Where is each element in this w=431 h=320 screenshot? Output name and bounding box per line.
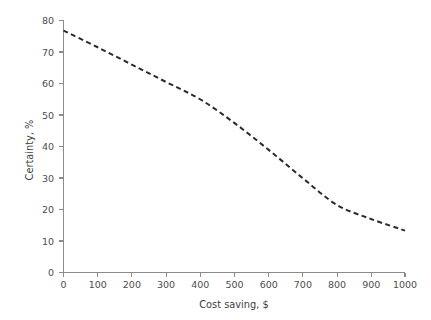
x-axis-title: Cost saving, $: [199, 299, 268, 310]
x-tick-label-400: 400: [191, 279, 209, 290]
x-axis-ticks: [64, 273, 406, 278]
x-tick-label-300: 300: [157, 279, 175, 290]
y-tick-label-40: 40: [42, 141, 54, 152]
y-tick-label-70: 70: [42, 47, 54, 58]
x-tick-label-500: 500: [225, 279, 243, 290]
data-series-line: [64, 31, 406, 231]
x-tick-label-900: 900: [362, 279, 380, 290]
x-tick-label-100: 100: [89, 279, 107, 290]
y-tick-label-60: 60: [42, 78, 54, 89]
y-tick-label-20: 20: [42, 204, 54, 215]
chart-figure: 0 10 20 30 40 50 60 70 80 0 100 200 300 …: [0, 0, 431, 320]
x-tick-label-600: 600: [260, 279, 278, 290]
x-tick-label-1000: 1000: [393, 279, 417, 290]
x-tick-label-700: 700: [294, 279, 312, 290]
y-tick-label-50: 50: [42, 110, 54, 121]
y-tick-label-30: 30: [42, 173, 54, 184]
line-chart: 0 10 20 30 40 50 60 70 80 0 100 200 300 …: [0, 0, 431, 320]
y-axis-ticks: [59, 21, 64, 273]
y-tick-label-0: 0: [48, 267, 54, 278]
x-tick-label-200: 200: [123, 279, 141, 290]
x-axis-tick-labels: 0 100 200 300 400 500 600 700 800 900 10…: [60, 279, 417, 290]
x-tick-label-0: 0: [60, 279, 66, 290]
y-tick-label-10: 10: [42, 236, 54, 247]
y-tick-label-80: 80: [42, 15, 54, 26]
x-tick-label-800: 800: [328, 279, 346, 290]
y-axis-tick-labels: 0 10 20 30 40 50 60 70 80: [42, 15, 54, 278]
y-axis-title: Certainty, %: [24, 120, 35, 181]
